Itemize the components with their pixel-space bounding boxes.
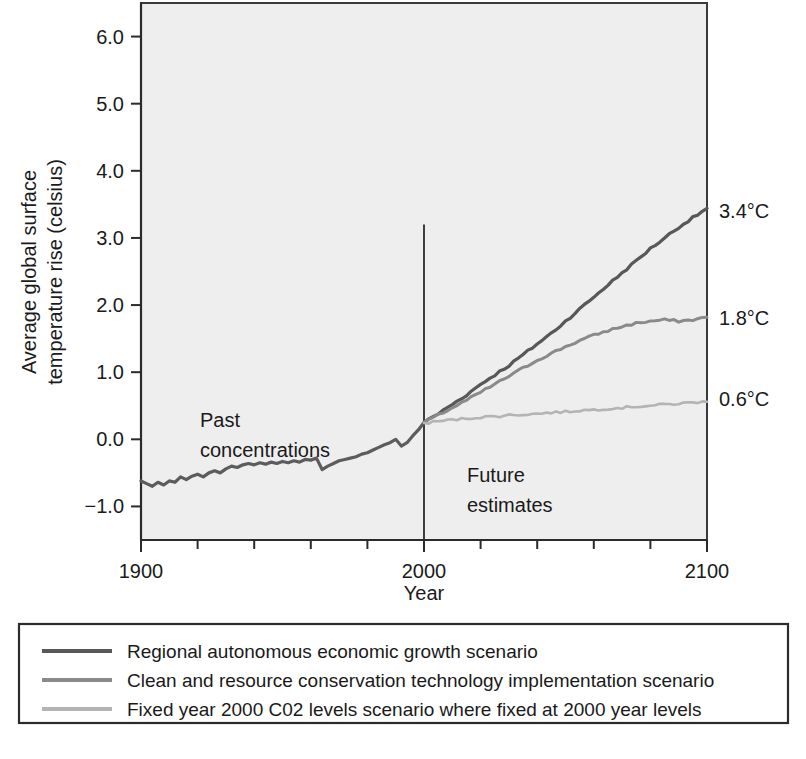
future-estimates-line2: estimates — [467, 494, 553, 516]
past-concentrations-line1: Past — [200, 409, 240, 431]
end-label-fixed: 0.6°C — [719, 388, 769, 410]
legend-label-2: Fixed year 2000 C02 levels scenario wher… — [127, 699, 702, 720]
y-axis-title-line2: temperature rise (celsius) — [44, 159, 66, 385]
x-tick-label: 1900 — [119, 560, 164, 582]
future-estimates-line1: Future — [467, 464, 525, 486]
y-tick-label: 0.0 — [96, 428, 124, 450]
y-tick-label: −1.0 — [85, 495, 124, 517]
legend-label-0: Regional autonomous economic growth scen… — [127, 641, 538, 662]
y-tick-label: 5.0 — [96, 93, 124, 115]
x-tick-label: 2000 — [402, 560, 447, 582]
end-label-regional: 3.4°C — [719, 200, 769, 222]
end-label-clean: 1.8°C — [719, 307, 769, 329]
past-concentrations-line2: concentrations — [200, 439, 330, 461]
y-tick-label: 1.0 — [96, 361, 124, 383]
legend-label-1: Clean and resource conservation technolo… — [127, 670, 714, 691]
y-axis-title-line1: Average global surface — [18, 170, 40, 374]
y-tick-label: 2.0 — [96, 294, 124, 316]
y-tick-label: 6.0 — [96, 26, 124, 48]
x-tick-label: 2100 — [685, 560, 730, 582]
y-tick-label: 4.0 — [96, 160, 124, 182]
x-axis-title: Year — [404, 582, 445, 604]
temperature-rise-line-chart: 6.05.04.03.02.01.00.0−1.0 190020002100 3… — [0, 0, 806, 759]
climate-projection-figure: 6.05.04.03.02.01.00.0−1.0 190020002100 3… — [0, 0, 806, 759]
y-tick-label: 3.0 — [96, 227, 124, 249]
